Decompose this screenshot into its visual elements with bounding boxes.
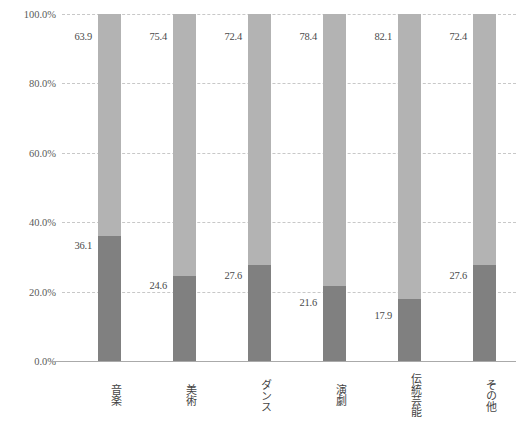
y-axis-tick-label: 40.0% (0, 217, 56, 228)
x-axis-category-label: 音楽 (98, 368, 121, 422)
y-axis-tick-label: 100.0% (0, 9, 56, 20)
bar-segment-lower[interactable] (248, 265, 271, 361)
bar-segment-upper[interactable] (473, 14, 496, 265)
bar-segment-lower[interactable] (98, 236, 121, 361)
y-axis-tick-label: 80.0% (0, 78, 56, 89)
gridline-20 (62, 292, 516, 293)
gridline-100 (62, 14, 516, 15)
gridline-60 (62, 153, 516, 154)
bar-segment-upper[interactable] (398, 14, 421, 299)
bar-segment-lower[interactable] (323, 286, 346, 361)
value-label-lower: 17.9 (350, 310, 392, 321)
plot-area: 63.9 36.1 75.4 24.6 72.4 27.6 78.4 21.6 … (62, 14, 516, 361)
value-label-upper: 72.4 (200, 31, 242, 42)
bar-segment-lower[interactable] (473, 265, 496, 361)
bar-segment-upper[interactable] (248, 14, 271, 265)
x-axis-category-label: ダンス (248, 368, 271, 422)
x-axis-category-label: 美術 (173, 368, 196, 422)
value-label-upper: 75.4 (125, 31, 167, 42)
stacked-bar-chart: 100.0% 80.0% 60.0% 40.0% 20.0% 0.0% 63.9… (0, 0, 527, 422)
y-axis-tick-label: 20.0% (0, 286, 56, 297)
bar-segment-upper[interactable] (323, 14, 346, 286)
value-label-upper: 82.1 (350, 31, 392, 42)
y-axis: 100.0% 80.0% 60.0% 40.0% 20.0% 0.0% (0, 14, 58, 361)
bar-segment-lower[interactable] (398, 299, 421, 361)
gridline-80 (62, 83, 516, 84)
value-label-lower: 27.6 (425, 270, 467, 281)
value-label-upper: 63.9 (50, 31, 92, 42)
value-label-lower: 27.6 (200, 270, 242, 281)
x-axis-category-label: 伝統芸能 (398, 368, 421, 422)
x-axis-category-label: 演劇 (323, 368, 346, 422)
value-label-lower: 36.1 (50, 240, 92, 251)
y-axis-tick-label: 0.0% (0, 356, 56, 367)
bar-segment-upper[interactable] (173, 14, 196, 276)
value-label-lower: 24.6 (125, 280, 167, 291)
bar-segment-upper[interactable] (98, 14, 121, 236)
y-axis-tick-label: 60.0% (0, 147, 56, 158)
value-label-lower: 21.6 (275, 297, 317, 308)
value-label-upper: 72.4 (425, 31, 467, 42)
bar-segment-lower[interactable] (173, 276, 196, 361)
gridline-40 (62, 222, 516, 223)
x-axis-category-label: その他 (473, 368, 496, 422)
value-label-upper: 78.4 (275, 31, 317, 42)
axis-baseline (50, 361, 516, 362)
